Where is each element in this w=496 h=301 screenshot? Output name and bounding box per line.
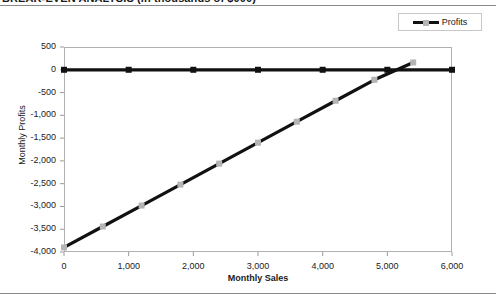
- y-tick-label: -3,500: [10, 223, 56, 233]
- y-tick-label: 500: [10, 41, 56, 51]
- legend-label-profits: Profits: [442, 17, 468, 27]
- footer-divider: [0, 293, 496, 294]
- y-tick-label: 0: [10, 64, 56, 74]
- y-tick-label: -2,500: [10, 178, 56, 188]
- chart-legend: Profits: [398, 13, 482, 31]
- y-tick-label: -2,000: [10, 155, 56, 165]
- x-tick-label: 0: [41, 261, 87, 271]
- x-tick-label: 1,000: [106, 261, 152, 271]
- x-tick-label: 3,000: [235, 261, 281, 271]
- legend-swatch-profits: [413, 18, 439, 27]
- y-tick-label: -1,000: [10, 109, 56, 119]
- x-tick-label: 2,000: [170, 261, 216, 271]
- chart-canvas: Monthly Profits Monthly Sales 5000-500-1…: [0, 34, 496, 278]
- x-axis-label: Monthly Sales: [178, 273, 338, 283]
- y-tick-label: -500: [10, 87, 56, 97]
- x-tick-label: 5,000: [364, 261, 410, 271]
- plot-svg: [0, 34, 496, 278]
- legend-marker-icon: [423, 20, 429, 26]
- x-tick-label: 6,000: [429, 261, 475, 271]
- y-tick-label: -3,000: [10, 200, 56, 210]
- header-divider: [0, 5, 496, 6]
- y-tick-label: -4,000: [10, 246, 56, 256]
- y-tick-label: -1,500: [10, 132, 56, 142]
- x-tick-label: 4,000: [300, 261, 346, 271]
